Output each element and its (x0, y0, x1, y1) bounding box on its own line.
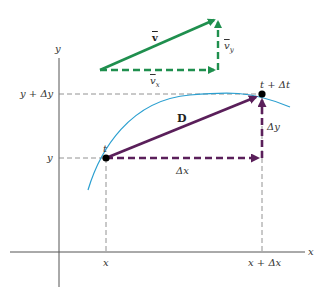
point-t-label: t (103, 144, 107, 154)
x-axis-label: x (308, 247, 314, 257)
vy-subscript: y (230, 46, 234, 54)
vx-subscript: x (156, 81, 160, 89)
point-t (102, 154, 109, 161)
y-axis-label: y (55, 44, 61, 54)
tick-x: x (103, 258, 109, 268)
trajectory-curve (88, 93, 290, 190)
velocity-label: v (152, 33, 158, 43)
dx-label: Δx (176, 166, 189, 176)
tick-y: y (47, 153, 53, 163)
tick-x-plus-dx: x + Δx (248, 258, 281, 268)
tick-y-plus-dy: y + Δy (20, 89, 53, 99)
motion-diagram (0, 0, 333, 291)
dy-label: Δy (267, 122, 280, 132)
displacement-vector (106, 97, 256, 158)
vy-label: vy (224, 41, 234, 54)
displacement-label: D (177, 113, 187, 124)
vx-label: vx (150, 76, 160, 89)
point-t-plus-dt-label: t + Δt (260, 80, 290, 90)
point-t-plus-dt (258, 90, 265, 97)
velocity-vector (100, 20, 214, 70)
